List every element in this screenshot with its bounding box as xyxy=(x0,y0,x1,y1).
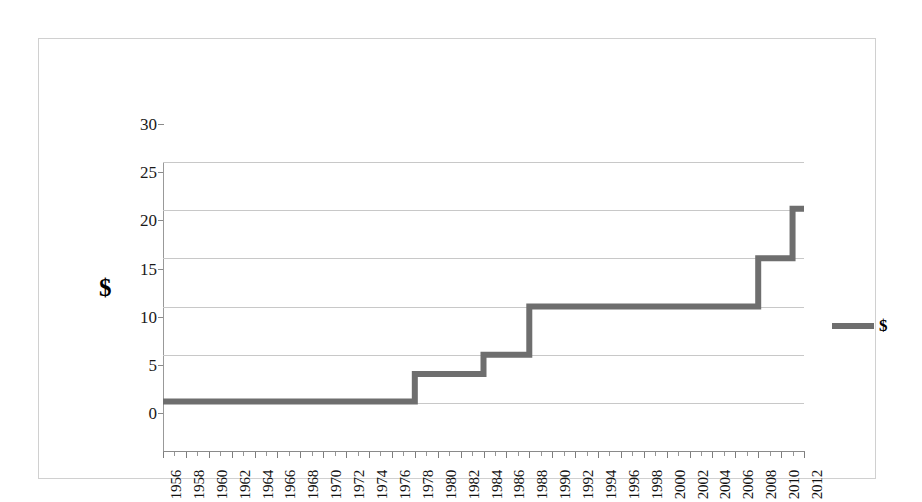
x-axis-tick xyxy=(415,452,416,458)
x-axis-minor-tick xyxy=(564,452,565,456)
x-axis-tick xyxy=(506,452,507,458)
x-axis-tick xyxy=(461,452,462,458)
x-axis-tick xyxy=(575,452,576,458)
x-axis-minor-tick xyxy=(403,452,404,456)
x-axis-tick xyxy=(667,452,668,458)
x-axis-tick xyxy=(484,452,485,458)
x-axis-tick-label: 1976 xyxy=(398,470,413,499)
y-axis-tick-label: 10 xyxy=(117,308,157,325)
x-axis-tick xyxy=(300,452,301,458)
x-axis-tick-label: 1956 xyxy=(169,470,184,499)
x-axis-tick xyxy=(690,452,691,458)
chart-frame: $ 051015202530 1956195819601962196419661… xyxy=(38,38,876,479)
x-axis-tick-labels: 1956195819601962196419661968197019721974… xyxy=(163,452,805,502)
x-axis-tick-label: 1986 xyxy=(512,470,527,499)
data-series-line xyxy=(163,162,804,451)
x-axis-tick xyxy=(209,452,210,458)
x-axis-tick xyxy=(186,452,187,458)
x-axis-tick xyxy=(621,452,622,458)
y-axis-tick-label: 20 xyxy=(117,212,157,229)
x-axis-minor-tick xyxy=(289,452,290,456)
x-axis-tick-label: 1992 xyxy=(581,470,596,499)
x-axis-tick-label: 2006 xyxy=(741,470,756,499)
x-axis-tick xyxy=(392,452,393,458)
x-axis-tick xyxy=(804,452,805,458)
x-axis-minor-tick xyxy=(449,452,450,456)
x-axis-tick-label: 1980 xyxy=(444,470,459,499)
x-axis-tick-label: 1994 xyxy=(604,470,619,499)
x-axis-minor-tick xyxy=(335,452,336,456)
x-axis-minor-tick xyxy=(793,452,794,456)
x-axis-tick-label: 2000 xyxy=(673,470,688,499)
x-axis-tick-label: 1988 xyxy=(535,470,550,499)
x-axis-tick xyxy=(323,452,324,458)
x-axis-minor-tick xyxy=(587,452,588,456)
x-axis-minor-tick xyxy=(220,452,221,456)
x-axis-tick-label: 1962 xyxy=(238,470,253,499)
x-axis-tick-label: 2010 xyxy=(787,470,802,499)
x-axis-minor-tick xyxy=(541,452,542,456)
x-axis-tick xyxy=(232,452,233,458)
x-axis-minor-tick xyxy=(609,452,610,456)
y-axis-tick-label: 15 xyxy=(117,260,157,277)
x-axis-tick xyxy=(758,452,759,458)
y-axis-tick xyxy=(158,124,164,125)
x-axis-tick xyxy=(277,452,278,458)
x-axis-tick xyxy=(529,452,530,458)
legend-line-swatch xyxy=(832,323,874,329)
x-axis-tick-label: 1972 xyxy=(352,470,367,499)
legend-label: $ xyxy=(879,317,888,334)
y-axis-tick-labels: 051015202530 xyxy=(109,39,157,502)
x-axis-tick-label: 1964 xyxy=(261,470,276,499)
x-axis-tick xyxy=(598,452,599,458)
x-axis-tick xyxy=(552,452,553,458)
plot-area xyxy=(163,162,804,451)
x-axis-tick-label: 1990 xyxy=(558,470,573,499)
x-axis-minor-tick xyxy=(495,452,496,456)
x-axis-minor-tick xyxy=(380,452,381,456)
x-axis-tick xyxy=(644,452,645,458)
x-axis-minor-tick xyxy=(655,452,656,456)
x-axis-minor-tick xyxy=(174,452,175,456)
x-axis-tick-label: 2008 xyxy=(764,470,779,499)
x-axis-tick-label: 1966 xyxy=(283,470,298,499)
chart-legend: $ xyxy=(832,317,888,334)
x-axis-minor-tick xyxy=(358,452,359,456)
x-axis-tick-label: 1998 xyxy=(650,470,665,499)
x-axis-tick-label: 1984 xyxy=(490,470,505,499)
x-axis-tick-label: 2002 xyxy=(696,470,711,499)
x-axis-tick-label: 1958 xyxy=(192,470,207,499)
x-axis-minor-tick xyxy=(724,452,725,456)
x-axis-minor-tick xyxy=(426,452,427,456)
x-axis-minor-tick xyxy=(770,452,771,456)
x-axis-minor-tick xyxy=(518,452,519,456)
x-axis-tick-label: 2012 xyxy=(810,470,825,499)
x-axis-tick xyxy=(735,452,736,458)
x-axis-minor-tick xyxy=(472,452,473,456)
x-axis-tick-label: 1996 xyxy=(627,470,642,499)
x-axis-minor-tick xyxy=(197,452,198,456)
x-axis-minor-tick xyxy=(312,452,313,456)
x-axis-tick xyxy=(369,452,370,458)
x-axis-minor-tick xyxy=(678,452,679,456)
x-axis-minor-tick xyxy=(266,452,267,456)
x-axis-tick xyxy=(255,452,256,458)
x-axis-minor-tick xyxy=(243,452,244,456)
x-axis-minor-tick xyxy=(747,452,748,456)
x-axis-tick-label: 1968 xyxy=(306,470,321,499)
x-axis-tick-label: 1978 xyxy=(421,470,436,499)
x-axis-tick xyxy=(712,452,713,458)
x-axis-tick xyxy=(346,452,347,458)
x-axis-tick-label: 2004 xyxy=(718,470,733,499)
x-axis-tick xyxy=(163,452,164,458)
x-axis-tick-label: 1974 xyxy=(375,470,390,499)
x-axis-tick-label: 1982 xyxy=(467,470,482,499)
y-axis-tick-label: 25 xyxy=(117,164,157,181)
y-axis-tick-label: 30 xyxy=(117,116,157,133)
x-axis-minor-tick xyxy=(632,452,633,456)
x-axis-tick xyxy=(781,452,782,458)
y-axis-tick-label: 5 xyxy=(117,356,157,373)
x-axis-tick-label: 1960 xyxy=(215,470,230,499)
x-axis-tick-label: 1970 xyxy=(329,470,344,499)
x-axis-tick xyxy=(438,452,439,458)
